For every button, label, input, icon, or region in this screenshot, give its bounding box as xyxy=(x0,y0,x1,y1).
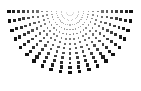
data-point xyxy=(46,11,48,13)
data-point xyxy=(118,26,121,29)
data-point xyxy=(126,29,129,32)
data-point xyxy=(104,59,107,62)
data-point xyxy=(60,61,63,64)
data-point xyxy=(80,31,82,33)
data-point xyxy=(129,10,132,13)
data-point xyxy=(45,56,48,59)
data-point xyxy=(37,16,39,18)
data-point xyxy=(97,15,99,17)
data-point xyxy=(41,64,44,67)
data-point xyxy=(32,59,35,62)
data-point xyxy=(73,33,75,35)
data-point xyxy=(75,18,76,19)
data-point xyxy=(70,15,71,16)
data-point xyxy=(19,46,22,49)
data-point xyxy=(52,44,54,46)
data-point xyxy=(61,14,62,15)
data-point xyxy=(77,22,78,23)
data-point xyxy=(118,46,121,49)
data-point xyxy=(43,30,45,32)
data-point xyxy=(114,43,117,46)
data-point xyxy=(53,59,56,62)
data-point xyxy=(75,28,76,29)
data-point xyxy=(95,30,97,32)
data-point xyxy=(115,17,118,20)
data-point xyxy=(96,48,99,51)
data-point xyxy=(72,24,73,25)
data-point xyxy=(39,32,41,34)
data-point xyxy=(32,16,34,18)
data-point xyxy=(83,11,84,12)
data-point xyxy=(71,15,72,16)
data-point xyxy=(80,19,81,20)
data-point xyxy=(91,18,93,20)
data-point xyxy=(66,12,67,13)
data-point xyxy=(51,63,54,66)
data-point xyxy=(31,38,34,41)
data-point xyxy=(83,13,84,14)
data-point xyxy=(39,40,42,43)
data-point xyxy=(69,48,71,50)
data-point xyxy=(85,27,87,29)
data-point xyxy=(79,41,81,43)
data-point xyxy=(56,50,59,53)
data-point xyxy=(68,71,71,74)
data-point xyxy=(25,53,28,56)
data-point xyxy=(102,43,105,46)
data-point xyxy=(50,48,53,51)
data-point xyxy=(92,33,94,35)
data-point xyxy=(49,21,51,23)
data-point xyxy=(35,55,38,58)
data-point xyxy=(71,20,72,21)
data-point xyxy=(91,41,93,43)
data-point xyxy=(35,35,38,38)
data-point xyxy=(115,10,118,13)
data-point xyxy=(80,26,81,27)
data-point xyxy=(69,24,70,25)
data-point xyxy=(94,23,96,25)
data-point xyxy=(66,29,67,30)
data-point xyxy=(70,15,71,16)
data-point xyxy=(22,10,25,13)
data-point xyxy=(61,11,62,12)
data-point xyxy=(77,16,78,17)
data-point xyxy=(57,17,58,18)
data-point xyxy=(69,15,70,16)
data-point xyxy=(74,19,75,20)
data-point xyxy=(99,52,102,55)
data-point xyxy=(78,37,80,39)
data-point xyxy=(90,21,92,23)
data-point xyxy=(66,12,67,13)
data-point xyxy=(63,23,64,24)
data-point xyxy=(114,33,117,36)
data-point xyxy=(88,48,91,51)
data-point xyxy=(86,63,89,66)
data-point xyxy=(41,48,44,51)
data-point xyxy=(100,21,102,23)
data-point xyxy=(54,55,57,58)
data-point xyxy=(40,25,42,27)
data-point xyxy=(10,29,13,32)
data-point xyxy=(56,35,58,37)
data-point xyxy=(92,56,95,59)
data-point xyxy=(69,29,70,30)
data-point xyxy=(86,44,88,46)
data-point xyxy=(43,19,45,21)
data-point xyxy=(36,10,38,12)
data-point xyxy=(59,31,61,33)
data-point xyxy=(122,27,125,30)
data-point xyxy=(85,33,87,35)
data-point xyxy=(17,10,20,13)
data-point xyxy=(69,57,72,60)
data-point xyxy=(106,16,108,18)
data-point xyxy=(49,30,51,32)
data-point xyxy=(47,52,50,55)
data-point xyxy=(66,19,67,20)
data-point xyxy=(8,19,11,22)
data-point xyxy=(69,52,72,55)
data-point xyxy=(41,11,43,13)
data-point xyxy=(81,17,82,18)
data-point xyxy=(92,11,94,13)
data-point xyxy=(32,46,35,49)
data-point xyxy=(77,61,80,64)
